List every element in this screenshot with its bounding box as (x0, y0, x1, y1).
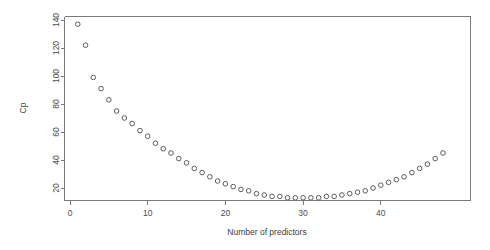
plot-svg: 20406080100120140 010203040 Number of pr… (0, 0, 490, 250)
x-tick-label: 30 (298, 208, 308, 218)
y-axis-title: Cp (18, 102, 28, 113)
screenshot-root: 20406080100120140 010203040 Number of pr… (0, 0, 490, 250)
x-axis-title: Number of predictors (227, 227, 306, 237)
y-tick-label: 40 (51, 155, 61, 165)
y-tick-label: 100 (51, 69, 61, 83)
y-tick-label: 20 (51, 183, 61, 193)
x-tick-label: 40 (376, 208, 386, 218)
y-tick-label: 140 (51, 13, 61, 27)
y-tick-label: 120 (51, 41, 61, 55)
x-tick-label: 0 (68, 208, 73, 218)
y-tick-label: 80 (51, 99, 61, 109)
x-tick-label: 20 (221, 208, 231, 218)
x-tick-label: 10 (143, 208, 153, 218)
y-tick-label: 60 (51, 127, 61, 137)
plot-background (0, 0, 490, 250)
scatter-plot: 20406080100120140 010203040 Number of pr… (0, 0, 490, 250)
